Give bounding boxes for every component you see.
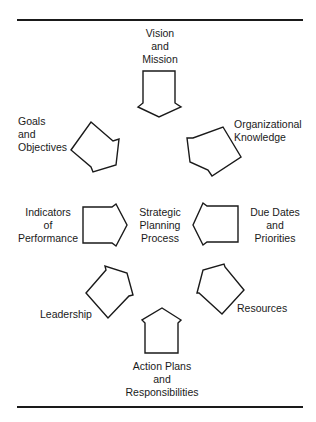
arrow-right-icon bbox=[83, 204, 127, 246]
arrow-down-icon bbox=[138, 71, 181, 117]
node-label-organizational-knowledge: Organizational Knowledge bbox=[234, 118, 314, 144]
node-label-goals-objectives: Goals and Objectives bbox=[18, 115, 88, 154]
node-label-indicators-performance: Indicators of Performance bbox=[13, 206, 83, 245]
arrow-left-icon bbox=[193, 203, 238, 245]
node-label-vision-mission: Vision and Mission bbox=[125, 27, 195, 66]
arrow-down-left-icon bbox=[187, 127, 241, 176]
node-label-action-plans: Action Plans and Responsibilities bbox=[110, 360, 214, 399]
node-label-due-dates-priorities: Due Dates and Priorities bbox=[240, 206, 310, 245]
node-label-resources: Resources bbox=[237, 302, 307, 315]
center-label-strategic-planning: Strategic Planning Process bbox=[130, 206, 190, 245]
arrow-up-icon bbox=[142, 308, 181, 353]
node-label-leadership: Leadership bbox=[40, 308, 110, 321]
